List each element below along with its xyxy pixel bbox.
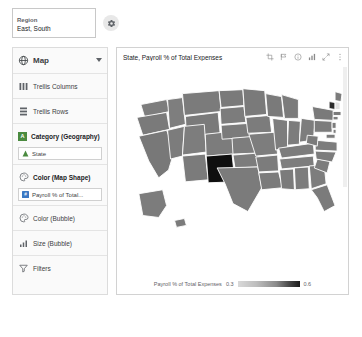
abc-icon bbox=[22, 150, 29, 157]
gear-icon[interactable] bbox=[103, 15, 119, 31]
state-IN bbox=[287, 120, 300, 145]
legend-title: Payroll % of Total Expenses bbox=[154, 281, 222, 287]
card-header-toolbar bbox=[265, 53, 344, 62]
more-vert-icon[interactable] bbox=[335, 53, 344, 62]
globe-icon bbox=[18, 55, 29, 66]
flag-icon[interactable] bbox=[279, 53, 288, 62]
divider bbox=[13, 98, 107, 99]
state-VT bbox=[329, 102, 335, 110]
state-AK bbox=[139, 190, 167, 218]
bars-icon bbox=[18, 238, 29, 249]
state-WI bbox=[266, 94, 284, 118]
choropleth-map[interactable] bbox=[123, 66, 342, 258]
info-icon[interactable] bbox=[293, 53, 302, 62]
color-bubble-row[interactable]: Color (Bubble) bbox=[13, 207, 107, 229]
divider bbox=[13, 123, 107, 124]
filters-row[interactable]: Filters bbox=[13, 257, 107, 279]
chevron-down-icon[interactable] bbox=[96, 58, 102, 62]
size-bubble-row[interactable]: Size (Bubble) bbox=[13, 232, 107, 254]
state-OK bbox=[233, 153, 259, 168]
state-MI bbox=[282, 95, 299, 119]
rows-icon bbox=[18, 106, 29, 117]
columns-icon bbox=[18, 81, 29, 92]
state-MN bbox=[243, 89, 267, 117]
state-MT bbox=[182, 91, 221, 116]
trellis-rows-row[interactable]: Trellis Rows bbox=[13, 100, 107, 122]
trellis-rows-label: Trellis Rows bbox=[33, 108, 68, 115]
trellis-columns-label: Trellis Columns bbox=[33, 83, 78, 90]
state-NV bbox=[168, 126, 185, 159]
divider bbox=[13, 205, 107, 206]
chart-title: State, Payroll % of Total Expenses bbox=[123, 54, 265, 61]
size-bubble-label: Size (Bubble) bbox=[33, 240, 72, 247]
visualization-card: State, Payroll % of Total Expenses bbox=[116, 47, 349, 295]
bar-chart-icon[interactable] bbox=[307, 53, 316, 62]
region-filter-bar: Region East, South bbox=[12, 8, 132, 38]
state-ID bbox=[168, 98, 186, 129]
category-badge-icon: A bbox=[18, 132, 27, 141]
state-HI bbox=[175, 218, 187, 227]
state-AR bbox=[256, 155, 279, 172]
state-NJ bbox=[332, 122, 336, 128]
state-ND bbox=[219, 90, 244, 108]
screenshot-root: Region East, South Map bbox=[0, 0, 362, 337]
color-map-shape-header: Color (Map Shape) bbox=[13, 166, 107, 188]
category-geography-label: Category (Geography) bbox=[31, 133, 100, 140]
color-legend: Payroll % of Total Expenses 0.3 0.6 bbox=[117, 281, 348, 287]
state-ME bbox=[335, 92, 342, 102]
color-bubble-label: Color (Bubble) bbox=[33, 215, 75, 222]
visualization-config-panel: Map Trellis Columns bbox=[12, 47, 108, 295]
funnel-icon bbox=[18, 263, 29, 274]
divider bbox=[13, 164, 107, 165]
palette-icon bbox=[18, 172, 29, 183]
state-NH bbox=[335, 102, 340, 110]
divider bbox=[13, 255, 107, 256]
state-LA bbox=[259, 172, 283, 190]
color-map-shape-label: Color (Map Shape) bbox=[33, 174, 90, 181]
region-filter-label: Region bbox=[17, 16, 91, 24]
chart-type-label: Map bbox=[33, 56, 49, 65]
state-MD bbox=[326, 134, 335, 138]
category-field-label: State bbox=[32, 151, 46, 157]
state-AZ bbox=[182, 154, 208, 182]
state-MA bbox=[333, 111, 341, 115]
state-PA bbox=[314, 120, 332, 132]
state-CT bbox=[333, 116, 338, 119]
vertical-scrollbar[interactable] bbox=[343, 67, 347, 187]
state-VA bbox=[315, 140, 337, 151]
region-filter[interactable]: Region East, South bbox=[12, 8, 96, 38]
state-MS bbox=[280, 169, 295, 190]
palette-icon bbox=[18, 213, 29, 224]
color-field-label: Payroll % of Total... bbox=[32, 192, 83, 198]
chart-type-selector[interactable]: Map bbox=[13, 48, 107, 72]
state-TX bbox=[217, 167, 262, 212]
hash-icon: # bbox=[22, 191, 29, 198]
legend-max-label: 0.6 bbox=[304, 281, 312, 287]
state-IA bbox=[246, 115, 272, 133]
state-SD bbox=[220, 107, 246, 125]
legend-min-label: 0.3 bbox=[226, 281, 234, 287]
legend-gradient-bar bbox=[238, 281, 300, 287]
state-FL bbox=[311, 185, 335, 212]
filters-label: Filters bbox=[33, 265, 51, 272]
state-UT bbox=[182, 124, 206, 155]
state-DE bbox=[333, 129, 336, 133]
state-IL bbox=[273, 118, 288, 150]
state-AL bbox=[294, 167, 309, 190]
trellis-columns-row[interactable]: Trellis Columns bbox=[13, 75, 107, 97]
divider bbox=[13, 73, 107, 74]
card-header: State, Payroll % of Total Expenses bbox=[117, 48, 348, 66]
color-field-chip[interactable]: # Payroll % of Total... bbox=[18, 188, 102, 201]
divider bbox=[13, 230, 107, 231]
region-filter-value: East, South bbox=[17, 24, 91, 33]
expand-icon[interactable] bbox=[321, 53, 330, 62]
crop-icon[interactable] bbox=[265, 53, 274, 62]
category-field-chip[interactable]: State bbox=[18, 147, 102, 160]
category-geography-header: A Category (Geography) bbox=[13, 125, 107, 147]
us-map-svg bbox=[123, 66, 342, 258]
svg-text:#: # bbox=[24, 192, 27, 197]
